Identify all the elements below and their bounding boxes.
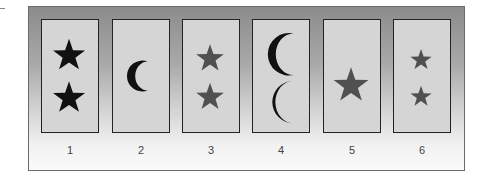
card-label-2: 2 [112, 144, 170, 156]
card-label-6: 6 [393, 144, 451, 156]
card-2 [112, 19, 170, 133]
card-label-1: 1 [41, 144, 99, 156]
decorative-dash [0, 8, 5, 9]
two-black-crescents-icon [253, 20, 309, 132]
card-label-3: 3 [182, 144, 240, 156]
two-black-stars-icon [42, 20, 98, 132]
card-6 [393, 19, 451, 133]
gray-star-icon [324, 20, 380, 132]
two-small-gray-stars-icon [394, 20, 450, 132]
card-4 [252, 19, 310, 133]
card-set-panel: 1 2 3 4 5 6 [28, 6, 465, 171]
card-label-5: 5 [323, 144, 381, 156]
card-3 [182, 19, 240, 133]
card-1 [41, 19, 99, 133]
card-label-4: 4 [252, 144, 310, 156]
card-5 [323, 19, 381, 133]
black-crescent-icon [113, 20, 169, 132]
two-gray-stars-icon [183, 20, 239, 132]
